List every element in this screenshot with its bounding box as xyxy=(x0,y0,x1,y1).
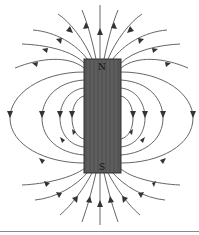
field-lines-svg: N S xyxy=(0,0,199,235)
bottom-divider xyxy=(0,231,199,232)
bar-magnet xyxy=(84,59,121,173)
south-pole-label: S xyxy=(99,162,105,172)
north-pole-label: N xyxy=(98,62,106,72)
